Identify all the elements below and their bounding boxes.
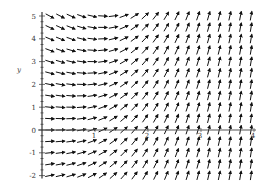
- slope-arrow: [110, 139, 117, 144]
- slope-arrow: [240, 46, 242, 55]
- slope-arrow: [153, 58, 158, 65]
- slope-arrow: [132, 138, 138, 145]
- slope-arrow: [186, 23, 189, 31]
- slope-arrow: [66, 61, 75, 63]
- x-tick-label: 3: [198, 132, 202, 140]
- slope-arrow: [186, 103, 189, 112]
- slope-arrow: [240, 57, 242, 66]
- slope-arrow: [240, 171, 241, 180]
- slope-arrow: [154, 172, 158, 180]
- slope-arrow: [45, 95, 54, 96]
- y-tick-label: -2: [29, 172, 36, 180]
- slope-arrow: [250, 171, 251, 180]
- slope-arrow: [175, 57, 179, 65]
- y-tick-label: 4: [32, 35, 37, 43]
- slope-arrow: [208, 171, 210, 180]
- slope-arrow: [109, 38, 118, 40]
- slope-arrow: [164, 115, 168, 123]
- slope-arrow: [66, 163, 75, 165]
- slope-arrow: [56, 72, 65, 74]
- slope-arrow: [77, 174, 85, 177]
- y-tick-label: 1: [32, 104, 36, 112]
- slope-arrow: [250, 80, 251, 89]
- slope-arrow: [56, 49, 64, 52]
- slope-arrow: [109, 105, 117, 109]
- slope-arrow: [131, 25, 138, 30]
- slope-arrow: [109, 15, 118, 16]
- slope-arrow: [56, 95, 65, 96]
- slope-arrow: [109, 116, 117, 121]
- slope-arrow: [109, 27, 118, 29]
- slope-arrow: [56, 141, 65, 142]
- slope-arrow: [56, 175, 65, 177]
- slope-arrow: [175, 80, 179, 88]
- slope-arrow: [67, 49, 76, 52]
- slope-arrow: [56, 14, 64, 18]
- slope-arrow: [153, 81, 158, 89]
- slope-arrow: [197, 171, 199, 180]
- slope-arrow: [56, 60, 65, 63]
- slope-arrow: [250, 148, 251, 157]
- slope-arrow: [175, 35, 179, 43]
- slope-arrow: [153, 35, 158, 42]
- slope-arrow: [229, 114, 231, 123]
- slope-arrow: [88, 84, 97, 85]
- slope-arrow: [77, 14, 85, 17]
- slope-arrow: [218, 57, 220, 66]
- slope-arrow: [207, 12, 209, 21]
- slope-arrow: [153, 115, 157, 123]
- slope-arrow: [88, 151, 96, 154]
- slope-arrow: [142, 81, 148, 88]
- slope-arrow: [175, 92, 178, 100]
- slope-arrow: [175, 12, 179, 20]
- slope-arrow: [131, 81, 138, 87]
- y-axis-ticks: -2-1012345: [29, 13, 45, 181]
- slope-arrow: [165, 171, 168, 179]
- slope-arrow: [45, 175, 54, 177]
- slope-arrow: [66, 95, 75, 96]
- slope-arrow: [197, 23, 200, 32]
- slope-arrow: [142, 104, 147, 111]
- slope-arrow: [66, 141, 75, 142]
- slope-arrow: [88, 95, 97, 96]
- slope-arrow: [143, 149, 148, 157]
- slope-arrow: [218, 137, 220, 146]
- slope-arrow: [99, 162, 107, 167]
- direction-field-plot: 1234 -2-1012345 y: [0, 0, 270, 187]
- slope-arrow: [197, 114, 200, 123]
- slope-arrow: [153, 12, 159, 19]
- x-tick-label: 1: [92, 132, 96, 140]
- slope-arrow: [98, 50, 107, 51]
- slope-arrow: [186, 35, 189, 43]
- slope-arrow: [218, 91, 220, 100]
- slope-arrow: [208, 103, 210, 112]
- slope-arrow: [208, 160, 210, 169]
- slope-arrow: [77, 152, 86, 155]
- slope-arrow: [88, 38, 97, 39]
- slope-arrow: [142, 58, 148, 65]
- slope-arrow: [77, 107, 86, 108]
- slope-arrow: [99, 117, 107, 120]
- slope-arrow: [120, 104, 127, 110]
- slope-arrow: [229, 12, 231, 21]
- slope-arrow: [164, 92, 168, 100]
- slope-arrow: [250, 46, 251, 55]
- slope-arrow: [218, 114, 220, 123]
- slope-arrow: [208, 91, 210, 100]
- slope-arrow: [67, 174, 76, 177]
- slope-arrow: [109, 49, 118, 52]
- slope-arrow: [154, 149, 158, 157]
- slope-arrow: [229, 34, 231, 43]
- slope-arrow: [164, 80, 168, 88]
- slope-arrow: [197, 91, 200, 100]
- slope-arrow: [250, 114, 251, 123]
- slope-arrow: [56, 26, 64, 30]
- slope-arrow: [98, 106, 106, 109]
- slope-arrow: [164, 24, 169, 32]
- slope-arrow: [45, 163, 54, 164]
- slope-arrow: [229, 46, 231, 55]
- slope-arrow: [142, 36, 148, 42]
- slope-arrow: [240, 12, 242, 21]
- x-tick-label: 4: [251, 132, 256, 140]
- slope-arrow: [240, 160, 242, 169]
